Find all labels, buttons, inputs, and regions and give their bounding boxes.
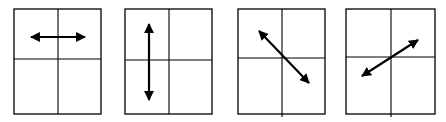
grid-panel-horizontal: [14, 9, 101, 114]
grid-panel-vertical: [125, 9, 212, 114]
double-arrow-diagonal-up-right-icon: [362, 40, 418, 76]
double-arrow-diagonal-down-right-icon: [259, 31, 309, 83]
quadrant-arrow-figure: [0, 0, 446, 122]
grid-panel-diagonal-up-right: [346, 9, 435, 117]
grid-panel-diagonal-down-right: [238, 9, 325, 117]
